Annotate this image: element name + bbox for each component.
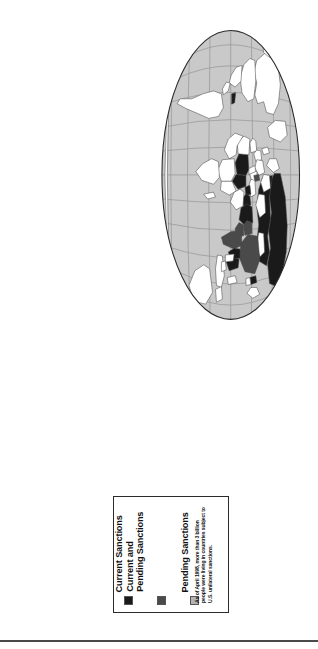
land-south-korea: [246, 278, 251, 286]
legend-label-line-1: Current and: [125, 542, 135, 592]
legend-note: As of April 1998, more than 3 billion pe…: [194, 507, 213, 603]
legend-label-current-and-pending: Current and Pending Sanctions: [125, 512, 146, 592]
land-papua: [215, 286, 222, 302]
legend-swatch-current-and-pending: [157, 596, 166, 605]
page-root: Current Sanctions Current and Pending Sa…: [0, 0, 318, 649]
land-malaysia: [221, 261, 226, 272]
bottom-divider: [0, 640, 318, 642]
land-thailand: [225, 254, 234, 262]
legend-label-line-2: Pending Sanctions: [136, 512, 146, 592]
legend-swatch-current: [124, 596, 133, 605]
legend-label-current: Current Sanctions: [114, 515, 124, 592]
legend-label-pending: Pending Sanctions: [180, 512, 190, 592]
map-legend: Current Sanctions Current and Pending Sa…: [113, 496, 229, 613]
